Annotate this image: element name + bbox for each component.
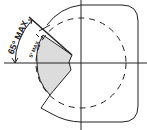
angle-diagram: 65° MAX 5° MAX	[0, 0, 147, 130]
shaded-sector	[37, 35, 72, 95]
cut-edge-lower	[41, 95, 52, 114]
outer-angle-label: 65° MAX	[6, 19, 30, 56]
diagram-canvas: 65° MAX 5° MAX	[0, 0, 147, 130]
